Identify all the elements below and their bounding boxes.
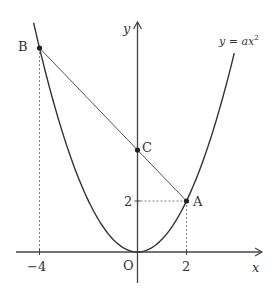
point-label-b: B (18, 39, 28, 54)
point-a (184, 198, 189, 203)
tick-label-y-2: 2 (124, 194, 132, 209)
point-b (37, 45, 42, 50)
point-c (135, 147, 140, 152)
curve-equation-label: y = ax2 (218, 34, 259, 48)
parabola-curve (34, 23, 235, 252)
tick-label-x-neg4: −4 (27, 259, 46, 274)
point-label-c: C (142, 140, 152, 155)
tick-marks (40, 201, 187, 255)
y-axis-label: y (122, 21, 131, 36)
segment-ab (40, 48, 187, 201)
parabola-diagram: y x O −4 2 2 A B C y = ax2 (0, 0, 277, 290)
point-label-a: A (192, 194, 203, 209)
dashed-guides (40, 48, 187, 252)
origin-label: O (123, 258, 134, 273)
tick-label-x-2: 2 (182, 259, 190, 274)
x-axis-label: x (252, 260, 260, 275)
